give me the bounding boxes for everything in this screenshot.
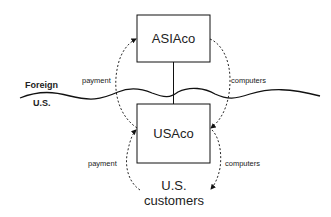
region-label-us: U.S.: [33, 98, 51, 108]
payment-flow-upper-arrow: [116, 39, 137, 128]
computers-flow-upper-arrow: [210, 39, 230, 128]
border-wave-line: [20, 88, 320, 99]
flow-label-computers-upper: computers: [231, 76, 266, 85]
diagram-canvas: ASIAco USAco Foreign U.S. payment comput…: [0, 0, 331, 217]
usaco-label: USAco: [153, 126, 193, 141]
region-label-foreign: Foreign: [25, 80, 58, 90]
computers-flow-lower-arrow: [211, 130, 221, 189]
customers-label-line2: customers: [144, 193, 204, 208]
flow-label-payment-lower: payment: [88, 159, 118, 168]
asiaco-label: ASIAco: [152, 31, 195, 46]
flow-label-payment-upper: payment: [82, 76, 112, 85]
customers-label-line1: U.S.: [161, 178, 186, 193]
flow-label-computers-lower: computers: [225, 159, 260, 168]
